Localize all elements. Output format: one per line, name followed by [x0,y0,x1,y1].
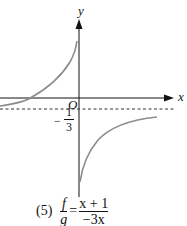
asymptote-denominator: 3 [64,121,74,133]
curve-left-branch [0,41,77,106]
caption-index: (5) [36,203,52,219]
asymptote-value-label: 1 3 [64,106,74,133]
figure-caption: (5) f g = x + 1 −3x [36,196,110,226]
caption-rhs-denominator: −3x [83,213,105,226]
asymptote-sign: − [54,114,61,129]
caption-equals: = [69,203,77,219]
x-axis-label: x [178,90,184,103]
caption-lhs-fraction: f g [60,197,67,226]
caption-lhs-numerator: f [62,197,66,210]
caption-lhs-denominator: g [60,213,67,226]
curve-right-branch [80,117,157,182]
caption-rhs-fraction: x + 1 −3x [79,197,108,226]
function-graph [0,0,187,200]
y-axis-label: y [78,4,84,17]
x-axis-arrow-icon [164,95,174,102]
y-axis-arrow-icon [76,19,83,29]
caption-rhs-numerator: x + 1 [79,197,108,210]
asymptote-numerator: 1 [64,106,74,118]
